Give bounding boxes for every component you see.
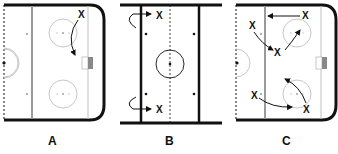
svg-text:X: X (156, 104, 163, 115)
svg-text:X: X (302, 10, 309, 21)
rink-panel-a: X (2, 5, 104, 120)
drill-diagram: X X X X X (0, 0, 338, 154)
rink-panel-b: X X (120, 5, 222, 123)
rink-panel-c: X X X X X (235, 5, 336, 120)
svg-text:X: X (156, 10, 163, 21)
svg-text:X: X (274, 47, 281, 58)
panel-label-c: C (282, 134, 291, 148)
panel-label-a: A (48, 134, 57, 148)
svg-text:X: X (249, 20, 256, 31)
svg-text:X: X (251, 90, 258, 101)
panel-label-b: B (165, 134, 174, 148)
svg-text:X: X (78, 9, 85, 20)
svg-text:X: X (303, 104, 310, 115)
